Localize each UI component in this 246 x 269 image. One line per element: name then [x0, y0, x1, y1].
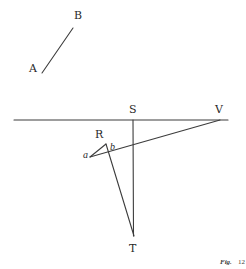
caption-number: 12 [238, 258, 246, 266]
caption-prefix: Fig. [220, 258, 232, 266]
label-b: B [74, 9, 82, 22]
line-r-t [106, 144, 134, 236]
label-a-lower: a [83, 149, 88, 160]
label-b-lower: b [110, 141, 115, 152]
label-s: S [129, 103, 137, 116]
label-a-upper: A [28, 62, 38, 75]
label-r: R [95, 128, 104, 141]
label-v: V [214, 103, 224, 116]
figure-caption: Fig. 12 [220, 250, 245, 267]
label-t: T [129, 242, 137, 255]
line-ab [42, 28, 73, 73]
perspective-diagram: A B S V R a b T Fig. 12 [0, 0, 246, 269]
line-s-t [133, 120, 134, 236]
